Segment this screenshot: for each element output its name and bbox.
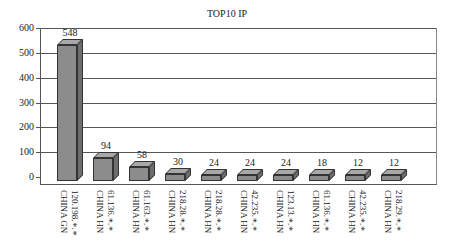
ip-label: 61.163.∗.∗ <box>141 190 152 233</box>
data-label: 12 <box>343 157 373 168</box>
gridline <box>41 127 436 128</box>
y-tick-mark <box>36 103 40 104</box>
bar-front <box>201 175 221 181</box>
x-tick-label: 218.28.∗.∗CHINA HN <box>202 190 224 233</box>
bar <box>345 175 371 181</box>
x-tick-label: 120.198.∗.∗CHINA GN <box>58 190 80 236</box>
y-tick-mark <box>36 177 40 178</box>
ip-label: 61.136.∗.∗ <box>105 190 116 233</box>
ip-label: 218.29.∗.∗ <box>393 190 404 233</box>
ip-label: 218.28.∗.∗ <box>213 190 224 233</box>
y-tick-mark <box>36 78 40 79</box>
data-label: 30 <box>163 156 193 167</box>
data-label: 18 <box>307 157 337 168</box>
ip-label: 42.235.∗.∗ <box>249 190 260 233</box>
bar <box>57 45 83 181</box>
ip-label: 123.13.∗.∗ <box>285 190 296 233</box>
bar-front <box>129 167 149 181</box>
gridline <box>41 28 436 29</box>
data-label: 58 <box>127 149 157 160</box>
data-label: 12 <box>379 157 409 168</box>
region-label: CHINA HN <box>310 190 321 233</box>
bar-side <box>77 39 83 181</box>
y-tick-label: 400 <box>4 73 34 83</box>
y-tick-label: 100 <box>4 147 34 157</box>
bar-front <box>237 175 257 181</box>
x-tick-label: 61.136.∗.∗CHINA HN <box>94 190 116 233</box>
bar-front <box>165 174 185 181</box>
x-tick-label: 42.235.∗.∗CHINA HN <box>346 190 368 233</box>
chart-title: TOP10 IP <box>0 8 454 19</box>
bar-front <box>93 158 113 181</box>
bar-front <box>273 175 293 181</box>
bar-front <box>345 175 365 181</box>
region-label: CHINA GN <box>58 190 69 236</box>
region-label: CHINA HN <box>346 190 357 233</box>
y-tick-label: 600 <box>4 23 34 33</box>
gridline <box>41 53 436 54</box>
x-tick-label: 61.163.∗.∗CHINA HN <box>130 190 152 233</box>
bar <box>237 175 263 181</box>
region-label: CHINA HN <box>382 190 393 233</box>
ip-label: 218.28.∗.∗ <box>177 190 188 233</box>
region-label: CHINA HN <box>238 190 249 233</box>
data-label: 24 <box>271 157 301 168</box>
bar <box>309 175 335 181</box>
bar-front <box>309 175 329 181</box>
x-tick-label: 218.29.∗.∗CHINA HN <box>382 190 404 233</box>
bar <box>93 158 119 181</box>
data-label: 24 <box>235 157 265 168</box>
x-tick-label: 61.136.∗.∗CHINA HN <box>310 190 332 233</box>
bar-front <box>381 175 401 181</box>
bar <box>201 175 227 181</box>
y-tick-mark <box>36 28 40 29</box>
region-label: CHINA HN <box>94 190 105 233</box>
gridline <box>41 78 436 79</box>
y-tick-mark <box>36 152 40 153</box>
ip-label: 42.235.∗.∗ <box>357 190 368 233</box>
y-tick-label: 0 <box>4 172 34 182</box>
bar <box>273 175 299 181</box>
y-tick-label: 300 <box>4 98 34 108</box>
bar-side <box>113 152 119 181</box>
region-label: CHINA HN <box>166 190 177 233</box>
gridline <box>41 103 436 104</box>
bar <box>129 167 155 181</box>
x-tick-label: 42.235.∗.∗CHINA HN <box>238 190 260 233</box>
y-tick-mark <box>36 127 40 128</box>
ip-label: 120.198.∗.∗ <box>69 190 80 236</box>
data-label: 94 <box>91 140 121 151</box>
x-tick-label: 123.13.∗.∗CHINA HN <box>274 190 296 233</box>
bar <box>165 174 191 181</box>
region-label: CHINA HN <box>274 190 285 233</box>
y-tick-label: 500 <box>4 48 34 58</box>
y-tick-label: 200 <box>4 122 34 132</box>
bar-front <box>57 45 77 181</box>
bar <box>381 175 407 181</box>
data-label: 548 <box>55 27 85 38</box>
data-label: 24 <box>199 157 229 168</box>
region-label: CHINA HN <box>130 190 141 233</box>
y-tick-mark <box>36 53 40 54</box>
ip-label: 61.136.∗.∗ <box>321 190 332 233</box>
region-label: CHINA HN <box>202 190 213 233</box>
x-tick-label: 218.28.∗.∗CHINA HN <box>166 190 188 233</box>
